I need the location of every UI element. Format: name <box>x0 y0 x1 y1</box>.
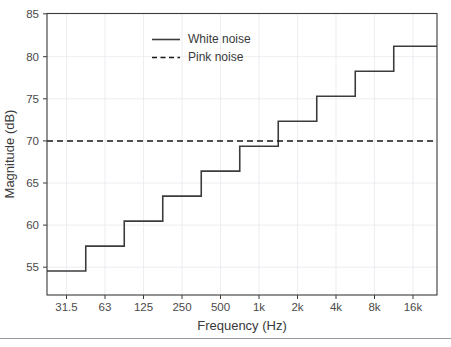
y-tick-label: 65 <box>26 177 39 189</box>
x-tick-label: 31.5 <box>55 301 77 313</box>
y-axis-title: Magnitude (dB) <box>2 110 17 199</box>
x-tick-label: 2k <box>291 301 303 313</box>
y-tick-label: 80 <box>26 51 39 63</box>
x-axis-ticks <box>67 295 414 299</box>
x-tick-label: 500 <box>211 301 230 313</box>
x-axis-tick-labels: 31.5 63 125 250 500 1k 2k 4k 8k 16k <box>55 301 422 313</box>
x-tick-label: 125 <box>134 301 153 313</box>
x-tick-label: 8k <box>368 301 380 313</box>
x-tick-label: 16k <box>404 301 423 313</box>
x-axis-title: Frequency (Hz) <box>197 318 287 333</box>
y-axis-ticks <box>43 14 47 267</box>
y-tick-label: 60 <box>26 219 39 231</box>
x-tick-label: 63 <box>99 301 112 313</box>
x-tick-label: 250 <box>172 301 191 313</box>
noise-spectrum-chart: 55 60 65 70 75 80 85 31.5 63 125 250 <box>0 0 451 347</box>
y-tick-label: 55 <box>26 261 39 273</box>
y-tick-label: 75 <box>26 93 39 105</box>
chart-figure: 55 60 65 70 75 80 85 31.5 63 125 250 <box>0 0 451 347</box>
x-tick-label: 4k <box>330 301 342 313</box>
legend-label-white-noise: White noise <box>188 32 251 46</box>
y-tick-label: 85 <box>26 8 39 20</box>
x-tick-label: 1k <box>253 301 265 313</box>
legend-label-pink-noise: Pink noise <box>188 50 244 64</box>
y-axis-tick-labels: 55 60 65 70 75 80 85 <box>26 8 39 273</box>
y-tick-label: 70 <box>26 135 39 147</box>
